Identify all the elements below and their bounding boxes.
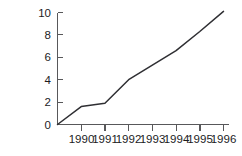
x-axis-labels: 1990 1991 1992 1993 1994 1995 1996 xyxy=(69,133,237,145)
y-tick-label-6: 6 xyxy=(45,51,51,63)
y-tick-label-0: 0 xyxy=(45,119,51,131)
x-tick-label-1994: 1994 xyxy=(164,133,190,145)
y-tick-label-8: 8 xyxy=(45,29,51,41)
x-tick-label-1993: 1993 xyxy=(140,133,166,145)
data-line-series-1 xyxy=(58,11,224,124)
y-tick-label-4: 4 xyxy=(45,74,52,86)
x-tick-label-1995: 1995 xyxy=(187,133,213,145)
x-axis-ticks xyxy=(82,125,224,131)
y-tick-label-10: 10 xyxy=(38,7,51,19)
line-chart: 10 8 6 4 2 0 1990 1991 1992 1993 1994 19… xyxy=(0,0,242,156)
y-axis-labels: 10 8 6 4 2 0 xyxy=(38,7,51,131)
y-tick-label-2: 2 xyxy=(45,96,51,108)
x-tick-label-1996: 1996 xyxy=(211,133,237,145)
x-tick-label-1992: 1992 xyxy=(116,133,142,145)
chart-canvas: 10 8 6 4 2 0 1990 1991 1992 1993 1994 19… xyxy=(0,0,242,156)
y-axis-ticks xyxy=(58,13,63,125)
x-tick-label-1991: 1991 xyxy=(92,133,118,145)
x-tick-label-1990: 1990 xyxy=(69,133,95,145)
